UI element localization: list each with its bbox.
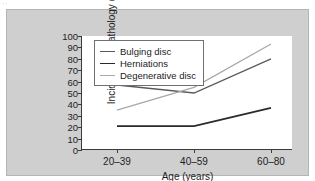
- legend-label: Bulging disc: [120, 46, 171, 57]
- x-tick-label: 40–59: [164, 156, 224, 167]
- legend-label: Degenerative disc: [120, 70, 196, 81]
- legend-swatch-icon: [100, 75, 115, 76]
- figure-container: ·· Incidence of pathology (%) 0102030405…: [0, 0, 315, 181]
- legend-swatch-icon: [100, 51, 115, 52]
- series-line: [117, 108, 271, 126]
- legend: Bulging discHerniationsDegenerative disc: [94, 40, 204, 86]
- figure-frame: Incidence of pathology (%) 0102030405060…: [6, 9, 309, 176]
- x-tick-label: 60–80: [241, 156, 301, 167]
- legend-item: Degenerative disc: [100, 69, 196, 81]
- x-tick-label: 20–39: [87, 156, 147, 167]
- y-tick-mark: [78, 150, 82, 151]
- legend-item: Bulging disc: [100, 45, 196, 57]
- legend-label: Herniations: [120, 58, 168, 69]
- legend-swatch-icon: [100, 63, 115, 64]
- plot-area: Incidence of pathology (%) 0102030405060…: [81, 36, 292, 150]
- corner-mark: ··: [2, 0, 9, 8]
- x-axis-label: Age (years): [82, 171, 293, 181]
- legend-item: Herniations: [100, 57, 196, 69]
